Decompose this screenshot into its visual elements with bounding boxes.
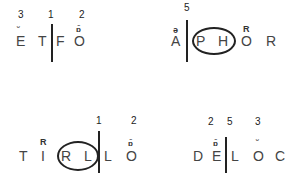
letter: H <box>218 34 228 48</box>
macron-mark: ɒ̄ <box>128 139 133 148</box>
letter: O <box>241 34 252 48</box>
macron-mark: ɒ̄ <box>213 139 218 148</box>
letter: O <box>253 149 264 163</box>
divider-bar <box>51 24 53 62</box>
letter: R <box>61 149 71 163</box>
stress-number: 1 <box>48 10 54 20</box>
letter: R <box>266 34 276 48</box>
letter: T <box>38 34 47 48</box>
stress-number: 5 <box>227 117 233 127</box>
breve-mark: ˘ <box>256 139 259 148</box>
stress-number: 3 <box>18 10 24 20</box>
r-mark: R <box>40 138 47 147</box>
stress-number: 3 <box>255 117 261 127</box>
letter: L <box>84 149 92 163</box>
stress-number: 2 <box>79 10 85 20</box>
letter: T <box>19 149 28 163</box>
letter: I <box>41 149 45 163</box>
letter: L <box>104 149 112 163</box>
letter: E <box>212 149 221 163</box>
letter: D <box>193 149 203 163</box>
divider-bar <box>225 137 227 173</box>
letter: C <box>275 149 285 163</box>
letter: P <box>196 34 205 48</box>
stress-number: 2 <box>131 116 137 126</box>
divider-bar <box>186 20 188 62</box>
letter: L <box>231 149 239 163</box>
letter: F <box>56 34 65 48</box>
stress-number: 5 <box>184 3 190 13</box>
letter: A <box>171 34 180 48</box>
letter: O <box>126 149 137 163</box>
letter: O <box>74 34 85 48</box>
letter: E <box>16 34 25 48</box>
divider-bar <box>98 131 100 173</box>
stress-number: 2 <box>208 117 214 127</box>
stress-number: 1 <box>96 116 102 126</box>
